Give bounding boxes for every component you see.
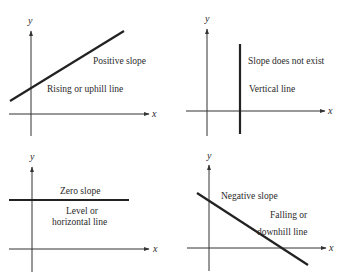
- y-axis-label: y: [27, 15, 33, 26]
- y-axis-label: y: [206, 150, 212, 161]
- label-horizontal-line: horizontal line: [52, 217, 107, 227]
- y-axis-label: y: [29, 151, 35, 162]
- x-axis-label: x: [328, 242, 334, 253]
- x-axis-label: x: [327, 105, 333, 116]
- panel-zero-slope: y x Zero slope Level or horizontal line: [9, 151, 158, 272]
- label-slope-does-not-exist: Slope does not exist: [248, 56, 325, 66]
- slope-diagram: y x Positive slope Rising or uphill line…: [0, 0, 345, 278]
- label-rising-uphill: Rising or uphill line: [47, 84, 123, 94]
- label-negative-slope: Negative slope: [221, 191, 278, 201]
- label-vertical-line: Vertical line: [249, 84, 295, 94]
- label-zero-slope: Zero slope: [60, 186, 100, 196]
- y-axis-label: y: [204, 13, 210, 24]
- label-falling-or: Falling or: [270, 210, 308, 220]
- label-positive-slope: Positive slope: [93, 56, 146, 66]
- panel-negative-slope: y x Negative slope Falling or downhill l…: [187, 150, 334, 271]
- x-axis-label: x: [152, 243, 158, 254]
- x-axis-label: x: [151, 108, 157, 119]
- label-downhill-line: downhill line: [257, 227, 307, 237]
- panel-positive-slope: y x Positive slope Rising or uphill line: [9, 15, 157, 136]
- panel-undefined-slope: y x Slope does not exist Vertical line: [186, 13, 333, 136]
- label-level-or: Level or: [66, 206, 99, 216]
